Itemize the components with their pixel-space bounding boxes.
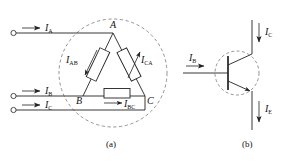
node-label-b: B xyxy=(76,96,82,106)
terminal-a xyxy=(11,30,16,35)
label-line-current-ib: IB xyxy=(45,86,52,96)
collector-slant xyxy=(228,54,252,65)
delta-boundary-circle xyxy=(59,19,167,127)
caption-b: (b) xyxy=(242,140,253,149)
subscript-b: B xyxy=(192,58,196,64)
label-phase-current-ica: ICA xyxy=(141,55,153,65)
subscript-ab: AB xyxy=(69,60,77,66)
subscript-c: C xyxy=(48,105,52,111)
node-label-c: C xyxy=(147,96,154,106)
panel-a-group xyxy=(11,19,167,127)
label-phase-current-iab: IAB xyxy=(66,55,78,65)
subscript-a: A xyxy=(48,28,52,34)
emitter-slant-arrow xyxy=(228,81,250,91)
node-label-a: A xyxy=(110,20,116,30)
terminal-c xyxy=(11,107,16,112)
label-terminal-current-ie: IE xyxy=(265,104,272,114)
figure-canvas xyxy=(0,0,283,165)
label-phase-current-ibc: IBC xyxy=(124,99,135,109)
subscript-bc: BC xyxy=(127,104,135,110)
figure-root: IA IB IC A B C IAB ICA IBC IB IC IE (a) … xyxy=(0,0,283,165)
label-terminal-current-ib: IB xyxy=(189,53,196,63)
resistor-bc xyxy=(104,89,130,99)
label-terminal-current-ic: IC xyxy=(265,27,272,37)
caption-a: (a) xyxy=(106,140,116,149)
subscript-b: B xyxy=(48,91,52,97)
terminal-b xyxy=(11,93,16,98)
subscript-ca: CA xyxy=(144,60,152,66)
label-line-current-ic: IC xyxy=(45,100,52,110)
subscript-e: E xyxy=(268,109,272,115)
label-line-current-ia: IA xyxy=(45,23,53,33)
panel-b-group xyxy=(183,20,259,130)
subscript-c: C xyxy=(268,32,272,38)
